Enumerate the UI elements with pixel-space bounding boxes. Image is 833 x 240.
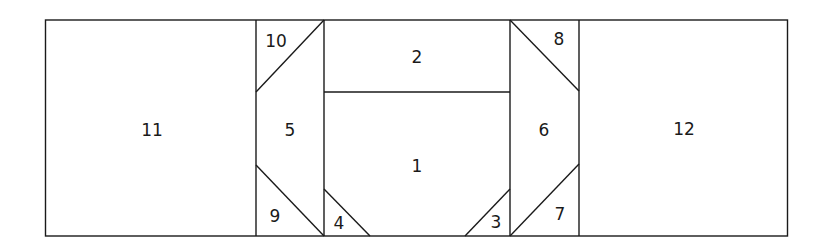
piece-label-7: 7 [555,204,566,224]
piece-label-11: 11 [141,120,163,140]
seam-9 [256,165,324,236]
piece-label-1: 1 [412,156,423,176]
piece-label-10: 10 [265,31,287,51]
seam-7 [510,164,579,236]
piece-label-4: 4 [334,213,345,233]
piece-label-3: 3 [491,212,502,232]
piece-label-6: 6 [539,120,550,140]
piece-label-5: 5 [285,120,296,140]
seam-4 [324,189,370,236]
piece-label-2: 2 [412,47,423,67]
seam-3 [465,189,510,236]
piece-label-12: 12 [673,119,695,139]
seam-8 [510,20,579,91]
quilt-piecing-diagram: 11 10 5 9 2 1 4 3 6 8 7 12 [0,0,833,240]
piece-label-9: 9 [270,206,281,226]
piece-label-8: 8 [554,29,565,49]
